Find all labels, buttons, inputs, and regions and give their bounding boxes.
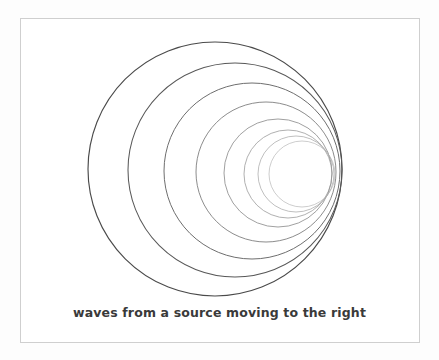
wavefront-circle-4 [196,102,336,242]
wavefront-circle-group [88,42,342,296]
wavefront-circle-5 [224,119,332,227]
figure-caption: waves from a source moving to the right [0,305,439,320]
wavefront-circle-2 [128,63,342,277]
figure-root: waves from a source moving to the right [0,0,439,360]
wavefront-circle-1 [88,42,342,296]
wavefront-circle-3 [164,83,340,259]
